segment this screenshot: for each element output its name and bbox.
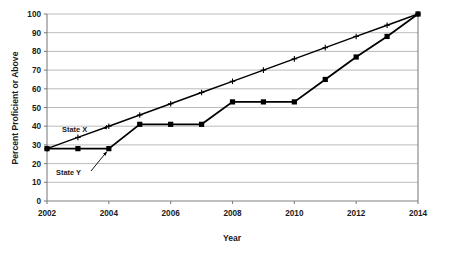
y-axis-tick-labels: 0102030405060708090100 bbox=[27, 10, 41, 206]
x-tick-label: 2002 bbox=[38, 209, 57, 218]
x-tick-label: 2014 bbox=[409, 209, 428, 218]
x-tick-label: 2006 bbox=[162, 209, 181, 218]
x-tick-label: 2012 bbox=[347, 209, 366, 218]
series-annotation-state-y: State Y bbox=[56, 168, 81, 177]
chart-svg: 0102030405060708090100 20022004200620082… bbox=[0, 0, 456, 256]
y-tick-label: 90 bbox=[32, 29, 42, 38]
y-tick-label: 50 bbox=[32, 104, 42, 113]
y-tick-label: 70 bbox=[32, 66, 42, 75]
x-axis-tick-labels: 2002200420062008201020122014 bbox=[38, 209, 428, 218]
x-tick-label: 2004 bbox=[100, 209, 119, 218]
x-tick-label: 2010 bbox=[285, 209, 304, 218]
y-tick-label: 0 bbox=[36, 197, 41, 206]
y-tick-label: 10 bbox=[32, 178, 42, 187]
y-tick-label: 20 bbox=[32, 160, 42, 169]
y-tick-label: 60 bbox=[32, 85, 42, 94]
y-axis-title: Percent Proficient or Above bbox=[10, 51, 20, 164]
y-tick-label: 40 bbox=[32, 122, 42, 131]
y-tick-label: 100 bbox=[27, 10, 41, 19]
y-tick-label: 80 bbox=[32, 47, 42, 56]
y-tick-label: 30 bbox=[32, 141, 42, 150]
x-axis-title: Year bbox=[223, 233, 242, 243]
series-annotation-state-x: State X bbox=[62, 125, 87, 134]
x-tick-label: 2008 bbox=[223, 209, 242, 218]
chart-container: 0102030405060708090100 20022004200620082… bbox=[0, 0, 456, 256]
